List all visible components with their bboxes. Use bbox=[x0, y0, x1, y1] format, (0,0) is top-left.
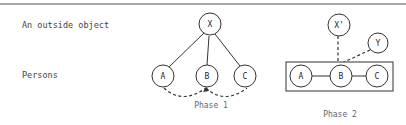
svg-text:C: C bbox=[243, 72, 248, 81]
phase2-node-a: A bbox=[290, 65, 312, 87]
phase2-node-y: Y bbox=[368, 33, 388, 53]
svg-text:A: A bbox=[299, 72, 304, 81]
diagram-canvas: An outside object Persons X A B C Phase … bbox=[0, 0, 406, 125]
svg-text:X': X' bbox=[334, 21, 344, 30]
phase2-node-x-prime: X' bbox=[328, 14, 350, 36]
svg-text:Y: Y bbox=[376, 39, 381, 48]
persons-label: Persons bbox=[22, 70, 58, 80]
phase1-edge-x-b bbox=[207, 36, 209, 65]
phase1-diagram: X A B C Phase 1 bbox=[152, 13, 256, 110]
phase1-edge-x-a bbox=[169, 33, 204, 67]
svg-text:C: C bbox=[375, 72, 380, 81]
svg-text:X: X bbox=[208, 20, 213, 29]
phase1-node-b: B bbox=[196, 65, 218, 87]
phase1-edge-x-c bbox=[215, 34, 240, 66]
phase1-node-a: A bbox=[152, 65, 174, 87]
svg-text:B: B bbox=[205, 72, 210, 81]
phase2-node-b: B bbox=[330, 65, 352, 87]
svg-text:A: A bbox=[161, 72, 166, 81]
svg-text:B: B bbox=[339, 72, 344, 81]
phase2-caption: Phase 2 bbox=[323, 110, 357, 119]
outside-object-label: An outside object bbox=[22, 20, 109, 30]
phase2-dashed-y bbox=[342, 50, 370, 63]
phase2-node-c: C bbox=[366, 65, 388, 87]
phase1-node-x: X bbox=[199, 13, 221, 35]
phase2-diagram: X' Y A B C Phase 2 bbox=[286, 14, 393, 119]
phase1-dashed-arc-a-b bbox=[164, 88, 206, 97]
phase1-caption: Phase 1 bbox=[194, 101, 228, 110]
phase1-node-c: C bbox=[234, 65, 256, 87]
phase1-dashed-arc-b-c bbox=[206, 88, 247, 97]
